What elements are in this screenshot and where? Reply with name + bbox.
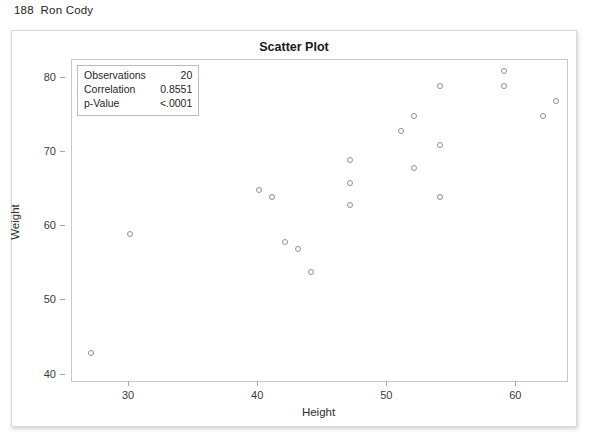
y-tick-mark	[60, 151, 65, 152]
x-tick-label: 60	[509, 389, 521, 401]
data-point	[269, 194, 275, 200]
data-point	[347, 157, 353, 163]
data-point	[411, 113, 417, 119]
y-tick-label: 70	[30, 145, 56, 157]
y-axis-title: Weight	[9, 204, 21, 240]
data-point	[411, 165, 417, 171]
data-point	[347, 180, 353, 186]
statistics-table: Observations20Correlation0.8551p-Value<.…	[84, 69, 192, 111]
x-tick-mark	[257, 381, 258, 386]
statistic-label: p-Value	[84, 97, 160, 111]
statistics-inset-box: Observations20Correlation0.8551p-Value<.…	[77, 65, 199, 116]
chart-title: Scatter Plot	[12, 40, 576, 54]
data-point	[256, 187, 262, 193]
statistics-row: Correlation0.8551	[84, 83, 192, 97]
y-tick-mark	[60, 374, 65, 375]
y-tick-label: 60	[30, 219, 56, 231]
x-tick-label: 30	[122, 389, 134, 401]
data-point	[127, 231, 133, 237]
data-point	[437, 194, 443, 200]
statistic-value: 0.8551	[160, 83, 192, 97]
data-point	[295, 246, 301, 252]
data-point	[282, 239, 288, 245]
x-tick-mark	[128, 381, 129, 386]
y-tick-mark	[60, 77, 65, 78]
statistics-row: p-Value<.0001	[84, 97, 192, 111]
statistics-row: Observations20	[84, 69, 192, 83]
x-tick-label: 50	[380, 389, 392, 401]
page-header: 188 Ron Cody	[14, 4, 93, 16]
data-point	[501, 83, 507, 89]
y-axis: 4050607080 Weight	[11, 30, 70, 411]
scatter-plot-area: Observations20Correlation0.8551p-Value<.…	[71, 59, 568, 382]
y-tick-label: 50	[30, 293, 56, 305]
data-point	[553, 98, 559, 104]
data-point	[437, 83, 443, 89]
y-tick-label: 80	[30, 71, 56, 83]
y-tick-label: 40	[30, 368, 56, 380]
y-tick-mark	[60, 225, 65, 226]
data-point	[501, 68, 507, 74]
data-point	[398, 128, 404, 134]
y-tick-mark	[60, 299, 65, 300]
x-axis: 30405060 Height	[70, 381, 567, 421]
data-point	[88, 350, 94, 356]
data-point	[308, 269, 314, 275]
x-tick-mark	[515, 381, 516, 386]
statistic-value: <.0001	[160, 97, 192, 111]
x-tick-label: 40	[251, 389, 263, 401]
figure-card: Scatter Plot Observations20Correlation0.…	[11, 30, 577, 427]
data-point	[540, 113, 546, 119]
statistic-value: 20	[160, 69, 192, 83]
x-axis-title: Height	[70, 406, 567, 418]
statistic-label: Observations	[84, 69, 160, 83]
x-tick-mark	[386, 381, 387, 386]
data-point	[437, 142, 443, 148]
data-point	[347, 202, 353, 208]
statistic-label: Correlation	[84, 83, 160, 97]
